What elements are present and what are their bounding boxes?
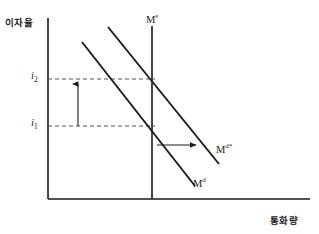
y-axis-title: 이자율: [5, 18, 33, 28]
x-axis-title: 통화량: [270, 216, 298, 226]
money-demand-shifted-label: Md*: [216, 143, 232, 155]
money-market-diagram: 이자율 통화량 i2 i1 Ms Md* Md: [0, 0, 319, 234]
diagram-canvas: [0, 0, 319, 234]
md2-superscript: d*: [225, 142, 232, 150]
md2-base: M: [216, 144, 225, 155]
money-demand-initial-label: Md: [193, 177, 206, 189]
md1-base: M: [193, 178, 202, 189]
tick-i1-subscript: 1: [34, 122, 38, 131]
y-tick-label-i2: i2: [31, 71, 38, 84]
y-tick-label-i1: i1: [31, 118, 38, 131]
ms-base: M: [146, 14, 155, 25]
ms-superscript: s: [155, 12, 158, 20]
money-supply-curve-label: Ms: [146, 13, 158, 25]
md1-superscript: d: [202, 176, 206, 184]
tick-i2-subscript: 2: [34, 75, 38, 84]
